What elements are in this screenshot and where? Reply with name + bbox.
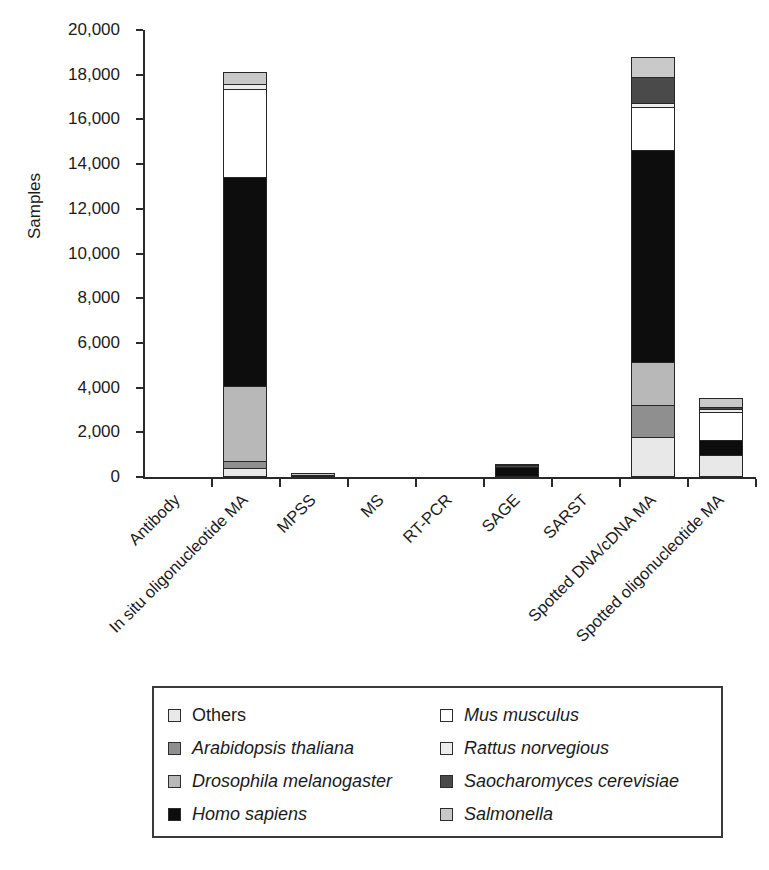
legend-item[interactable]: Arabidopsis thaliana xyxy=(168,738,440,759)
legend-swatch-icon xyxy=(168,742,181,755)
bar-slot xyxy=(551,30,619,477)
y-tick-label-2000: 2,000 xyxy=(0,423,120,440)
legend-swatch-icon xyxy=(168,808,181,821)
y-tick-label-8000: 8,000 xyxy=(0,289,120,306)
bar-segment[interactable] xyxy=(223,468,267,477)
legend-item[interactable]: Rattus norvegious xyxy=(440,738,716,759)
bar-slot xyxy=(143,30,211,477)
x-tick-label: Spotted oligonucleotide MA xyxy=(573,491,727,645)
bar-segment[interactable] xyxy=(631,107,675,152)
legend-item[interactable]: Mus musculus xyxy=(440,705,716,726)
bar-segment[interactable] xyxy=(495,467,539,477)
legend-item[interactable]: Others xyxy=(168,705,440,726)
bar-segment[interactable] xyxy=(631,405,675,437)
bar-slot xyxy=(347,30,415,477)
y-tick-label-10000: 10,000 xyxy=(0,245,120,262)
bar-segment[interactable] xyxy=(223,72,267,85)
y-tick-20000 xyxy=(136,29,143,31)
stacked-bar[interactable] xyxy=(495,465,539,477)
x-tick-8 xyxy=(687,479,689,487)
y-tick-label-20000: 20,000 xyxy=(0,21,120,38)
y-tick-16000 xyxy=(136,118,143,120)
y-tick-label-0: 0 xyxy=(0,468,120,485)
bar-segment[interactable] xyxy=(699,412,743,441)
legend-swatch-icon xyxy=(440,808,453,821)
x-tick-label: MPSS xyxy=(274,491,319,536)
bar-slot xyxy=(279,30,347,477)
stacked-bar[interactable] xyxy=(631,58,675,477)
bar-segment[interactable] xyxy=(631,362,675,407)
legend-label: Drosophila melanogaster xyxy=(192,771,392,792)
bar-segment[interactable] xyxy=(223,89,267,178)
x-axis-line xyxy=(143,477,756,479)
stacked-bar-chart-figure: Samples 02,0004,0006,0008,00010,00012,00… xyxy=(0,0,769,870)
legend-swatch-icon xyxy=(440,709,453,722)
y-tick-8000 xyxy=(136,297,143,299)
y-tick-0 xyxy=(136,476,143,478)
legend-label: Salmonella xyxy=(464,804,553,825)
x-tick-label: SARST xyxy=(540,491,591,542)
y-tick-label-18000: 18,000 xyxy=(0,66,120,83)
bar-segment[interactable] xyxy=(631,57,675,78)
legend-box: OthersMus musculusArabidopsis thalianaRa… xyxy=(152,686,723,838)
y-tick-6000 xyxy=(136,342,143,344)
x-tick-5 xyxy=(483,479,485,487)
bar-segment[interactable] xyxy=(631,77,675,104)
y-tick-label-4000: 4,000 xyxy=(0,379,120,396)
x-tick-2 xyxy=(279,479,281,487)
x-tick-7 xyxy=(619,479,621,487)
y-tick-label-16000: 16,000 xyxy=(0,110,120,127)
y-tick-4000 xyxy=(136,387,143,389)
x-tick-9 xyxy=(755,479,757,487)
bar-slot xyxy=(619,30,687,477)
legend-item[interactable]: Salmonella xyxy=(440,804,716,825)
bar-slot xyxy=(415,30,483,477)
legend-label: Others xyxy=(192,705,246,726)
legend-label: Rattus norvegious xyxy=(464,738,609,759)
legend-swatch-icon xyxy=(168,775,181,788)
legend-item[interactable]: Saocharomyces cerevisiae xyxy=(440,771,716,792)
x-tick-label: MS xyxy=(357,491,386,520)
x-tick-label: In situ oligonucleotide MA xyxy=(106,491,251,636)
x-tick-label: Spotted DNA/cDNA MA xyxy=(525,491,659,625)
y-tick-label-6000: 6,000 xyxy=(0,334,120,351)
x-tick-label: Antibody xyxy=(126,491,183,548)
y-tick-2000 xyxy=(136,431,143,433)
legend-item[interactable]: Homo sapiens xyxy=(168,804,440,825)
x-tick-label: RT-PCR xyxy=(400,491,455,546)
bar-segment[interactable] xyxy=(223,386,267,462)
bar-segment[interactable] xyxy=(223,177,267,387)
y-tick-label-14000: 14,000 xyxy=(0,155,120,172)
legend-label: Arabidopsis thaliana xyxy=(192,738,354,759)
x-tick-1 xyxy=(211,479,213,487)
legend-swatch-icon xyxy=(440,775,453,788)
stacked-bar[interactable] xyxy=(699,399,743,477)
bar-segment[interactable] xyxy=(699,440,743,456)
bar-segment[interactable] xyxy=(631,150,675,362)
plot-area: 02,0004,0006,0008,00010,00012,00014,0001… xyxy=(143,30,755,478)
bar-slot xyxy=(211,30,279,477)
legend-swatch-icon xyxy=(440,742,453,755)
bar-segment[interactable] xyxy=(699,455,743,477)
y-tick-18000 xyxy=(136,74,143,76)
legend-label: Mus musculus xyxy=(464,705,579,726)
bar-segment[interactable] xyxy=(291,475,335,478)
y-tick-label-12000: 12,000 xyxy=(0,200,120,217)
y-tick-10000 xyxy=(136,253,143,255)
legend-label: Homo sapiens xyxy=(192,804,307,825)
x-tick-label: SAGE xyxy=(479,491,523,535)
y-tick-14000 xyxy=(136,163,143,165)
stacked-bar[interactable] xyxy=(291,474,335,477)
bar-segment[interactable] xyxy=(631,437,675,477)
legend-label: Saocharomyces cerevisiae xyxy=(464,771,679,792)
legend-item[interactable]: Drosophila melanogaster xyxy=(168,771,440,792)
x-tick-6 xyxy=(551,479,553,487)
x-tick-4 xyxy=(415,479,417,487)
y-tick-12000 xyxy=(136,208,143,210)
bar-slot xyxy=(483,30,551,477)
legend-swatch-icon xyxy=(168,709,181,722)
stacked-bar[interactable] xyxy=(223,73,267,477)
legend-entries: OthersMus musculusArabidopsis thalianaRa… xyxy=(168,699,716,831)
bar-slot xyxy=(687,30,755,477)
x-tick-3 xyxy=(347,479,349,487)
